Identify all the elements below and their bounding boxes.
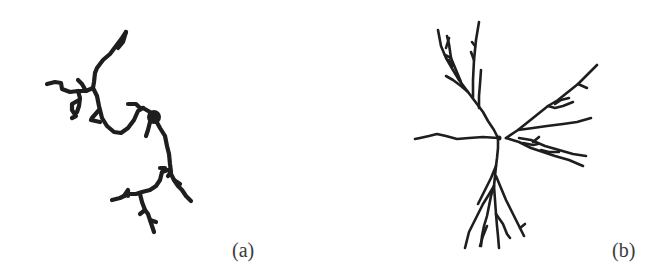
panel-label-b: (b) bbox=[612, 239, 635, 262]
panel-a: (a) bbox=[0, 0, 333, 280]
panel-label-a: (a) bbox=[232, 239, 254, 262]
dendrite-pattern-a bbox=[0, 0, 333, 280]
panel-b: (b) bbox=[333, 0, 666, 280]
dendrite-pattern-b bbox=[333, 0, 666, 280]
